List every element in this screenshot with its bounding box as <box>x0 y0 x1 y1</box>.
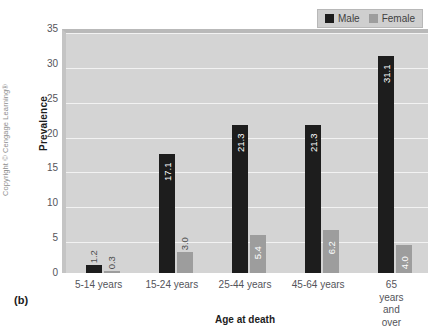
bar-male: 31.1 <box>378 56 394 273</box>
y-tick-label: 30 <box>47 59 58 69</box>
plot-frame: 1.20.317.13.021.35.421.36.231.14.0 <box>62 29 428 273</box>
legend-entry-male: Male <box>325 14 360 24</box>
x-axis-title: Age at death <box>62 314 428 325</box>
plot-area: 1.20.317.13.021.35.421.36.231.14.0 <box>66 33 428 273</box>
y-axis-title: Prevalence <box>38 96 49 151</box>
bar-value-label: 3.0 <box>180 237 190 250</box>
bar-group: 17.13.0 <box>139 33 212 273</box>
bar-male: 17.1 <box>159 154 175 273</box>
bar-group: 31.14.0 <box>359 33 432 273</box>
y-tick-label: 15 <box>47 163 58 173</box>
legend-entry-female: Female <box>369 14 415 24</box>
x-tick-label: 15-24 years <box>145 279 198 292</box>
x-axis-tick-labels: 5-14 years15-24 years25-44 years45-64 ye… <box>62 279 428 311</box>
bar-female: 0.3 <box>104 271 120 273</box>
bar-value-label: 6.2 <box>326 241 336 254</box>
legend-label-male: Male <box>338 14 360 24</box>
bar-value-label: 0.3 <box>107 256 117 269</box>
y-tick-label: 35 <box>47 24 58 34</box>
x-tick-label: 25-44 years <box>219 279 272 292</box>
bar-female: 5.4 <box>250 235 266 273</box>
bar-value-label: 5.4 <box>253 247 263 260</box>
bar-male: 21.3 <box>305 125 321 273</box>
chart-legend: Male Female <box>317 9 423 28</box>
black-square-swatch-icon <box>325 14 334 23</box>
y-tick-label: 5 <box>52 233 58 243</box>
bar-male: 21.3 <box>232 125 248 273</box>
y-tick-label: 0 <box>52 268 58 278</box>
bar-value-label: 21.3 <box>308 133 318 152</box>
bar-male: 1.2 <box>86 265 102 273</box>
copyright-credit: Copyright © Cengage Learning® <box>1 84 10 196</box>
bar-female: 3.0 <box>177 252 193 273</box>
bar-value-label: 31.1 <box>382 65 392 84</box>
y-axis-tick-labels: 05101520253035 <box>28 29 58 273</box>
bar-value-label: 17.1 <box>162 162 172 181</box>
bar-female: 6.2 <box>323 230 339 273</box>
y-tick-label: 10 <box>47 198 58 208</box>
x-tick-label: 45-64 years <box>292 279 345 292</box>
bar-female: 4.0 <box>396 245 412 273</box>
bar-value-label: 21.3 <box>235 133 245 152</box>
bar-value-label: 4.0 <box>400 256 410 269</box>
panel-label: (b) <box>14 294 28 306</box>
bar-group: 21.35.4 <box>212 33 285 273</box>
bar-group: 1.20.3 <box>66 33 139 273</box>
bar-group: 21.36.2 <box>286 33 359 273</box>
bar-chart-figure: Male Female 05101520253035 Prevalence 1.… <box>0 0 444 333</box>
x-tick-label: 5-14 years <box>75 279 122 292</box>
gray-square-swatch-icon <box>369 14 378 23</box>
legend-label-female: Female <box>382 14 415 24</box>
bar-value-label: 1.2 <box>89 250 99 263</box>
